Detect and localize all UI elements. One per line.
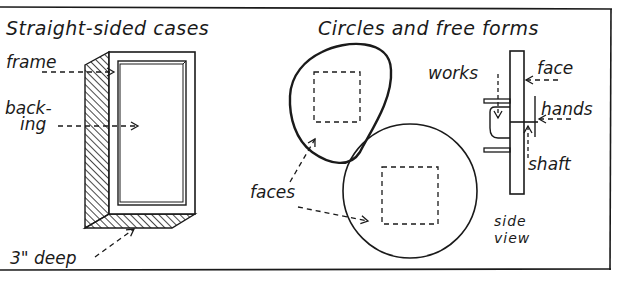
circular-case [343,124,477,258]
left-section-title: Straight-sided cases [6,17,209,39]
free-form-face [314,72,360,122]
circular-face [382,167,438,224]
depth-arrow [95,229,134,257]
depth-label: 3" deep [10,248,77,268]
free-form-case [290,44,391,163]
faces-label: faces [250,182,295,202]
clock-case-diagram: Straight-sided cases Circles and free fo… [0,0,632,285]
faces-arrow-right [298,207,368,221]
faces-arrow-up [290,139,315,182]
shaft-label: shaft [528,154,572,174]
side-view-label-line1: side [494,213,527,229]
rectangular-case-drawing [85,52,195,228]
frame-label: frame [6,52,56,72]
hands-label: hands [541,99,593,119]
face-label: face [537,58,573,78]
side-view-label-line2: view [494,230,530,246]
works-label: works [428,63,478,83]
backing-label-line2: ing [20,114,46,134]
right-section-title: Circles and free forms [318,17,539,39]
